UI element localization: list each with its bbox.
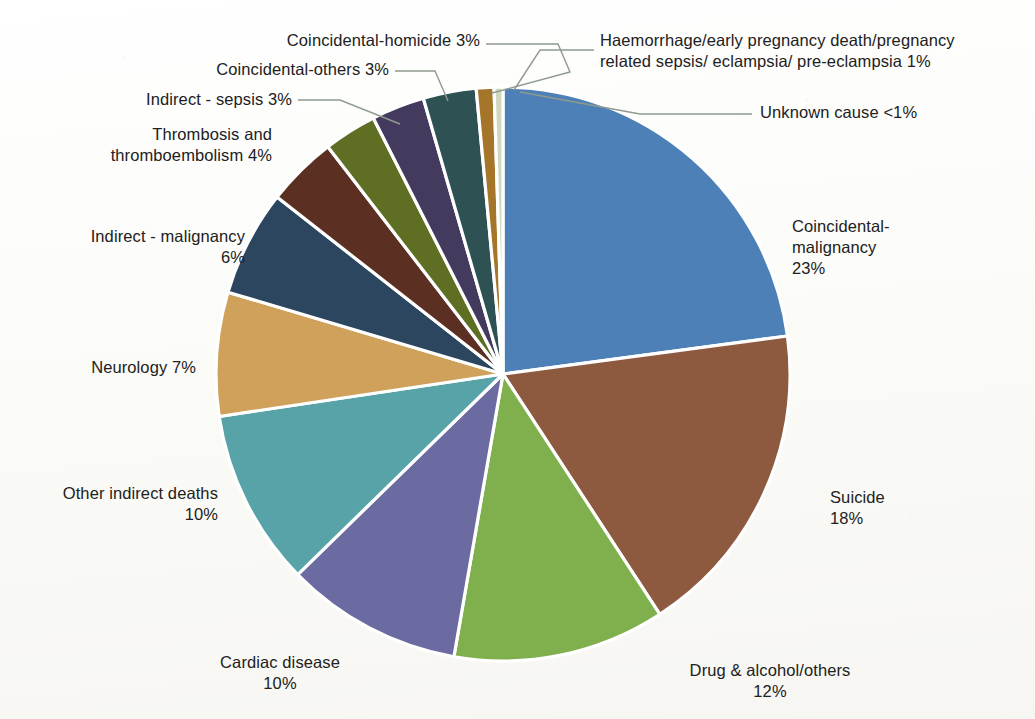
slice-label-indirect-malignancy: Indirect - malignancy 6% xyxy=(0,226,245,268)
slice-label-coincidental-homicide: Coincidental-homicide 3% xyxy=(0,30,480,51)
slice-label-drug-alcohol-others: Drug & alcohol/others 12% xyxy=(630,660,910,702)
slice-label-neurology: Neurology 7% xyxy=(0,357,196,378)
slice-label-unknown-cause: Unknown cause <1% xyxy=(760,102,1020,123)
pie-chart: Coincidental- malignancy 23% Suicide 18%… xyxy=(0,0,1035,719)
slice-label-cardiac-disease: Cardiac disease 10% xyxy=(150,652,410,694)
slice-label-coincidental-others: Coincidental-others 3% xyxy=(0,59,389,80)
pie-slice-coincidental-malignancy[interactable] xyxy=(503,87,787,374)
slice-label-coincidental-malignancy: Coincidental- malignancy 23% xyxy=(792,216,962,279)
slice-label-suicide: Suicide 18% xyxy=(830,487,950,529)
slice-label-indirect-sepsis: Indirect - sepsis 3% xyxy=(0,89,292,110)
slice-label-haemorrhage: Haemorrhage/early pregnancy death/pregna… xyxy=(600,30,1035,72)
slice-label-other-indirect-deaths: Other indirect deaths 10% xyxy=(0,483,218,525)
pie-slices-group xyxy=(216,87,790,661)
slice-label-thrombosis-thromboembolism: Thrombosis and thromboembolism 4% xyxy=(0,124,272,166)
